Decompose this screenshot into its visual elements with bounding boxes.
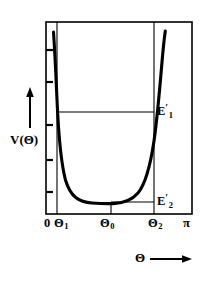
energy-label-E1: E′1: [157, 103, 173, 119]
right-arrow-icon: [150, 255, 192, 263]
subscript: 2: [158, 221, 163, 231]
y-axis-ticks: [46, 50, 53, 192]
up-arrow-icon: [26, 87, 34, 128]
subscript: 0: [110, 221, 115, 231]
x-tick-label-theta2: Θ2: [148, 217, 162, 231]
subscript: 1: [168, 110, 173, 120]
subscript: 2: [168, 200, 173, 210]
x-axis-label: Θ: [135, 251, 145, 264]
x-tick-label-zero: 0: [44, 217, 50, 230]
x-tick-label-pi: π: [183, 217, 190, 230]
y-axis-label: V(Θ): [10, 133, 38, 146]
x-tick-label-theta1: Θ1: [54, 217, 68, 231]
x-tick-label-theta0: Θ0: [100, 217, 114, 231]
energy-label-E2: E′2: [157, 193, 173, 209]
potential-curve: [54, 31, 166, 204]
subscript: 1: [64, 221, 69, 231]
potential-energy-figure: 0 Θ1 Θ0 Θ2 π E′1 E′2 V(Θ) Θ: [0, 0, 206, 284]
